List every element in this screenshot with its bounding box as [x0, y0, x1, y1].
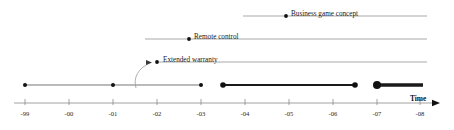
axis-tick-label-neg07: -07: [373, 111, 382, 118]
axis-title-time: Time: [410, 95, 426, 102]
main-event-marker-6: [373, 81, 381, 89]
axis-tick-label-neg05: -05: [285, 111, 294, 118]
main-event-marker-1: [23, 83, 27, 87]
callout-arrow-group: [135, 60, 152, 88]
extended-warranty-callout-curve: [135, 63, 150, 88]
timeline-chart: Business game conceptRemote controlExten…: [0, 0, 454, 130]
main-event-marker-2: [111, 83, 115, 87]
extended-warranty-callout-arrowhead: [146, 60, 152, 65]
axis-tick-label-neg02: -02: [153, 111, 162, 118]
marker-extended-warranty: [155, 60, 159, 64]
axis-tick-label-neg03: -03: [197, 111, 206, 118]
main-event-marker-3: [199, 83, 203, 87]
main-timeline-group: [23, 81, 423, 89]
marker-business-game-concept: [284, 14, 288, 18]
axis-tick-label-neg01: -01: [109, 111, 118, 118]
label-extended-warranty: Extended warranty: [163, 57, 217, 64]
axis-tick-label-neg04: -04: [241, 111, 250, 118]
label-remote-control: Remote control: [194, 34, 239, 41]
axis-tick-label-neg08: -08: [416, 111, 425, 118]
main-event-marker-5: [352, 82, 358, 88]
label-business-game-concept: Business game concept: [291, 11, 358, 18]
axis-tick-label-neg00: -00: [65, 111, 74, 118]
axis-arrowhead-icon: [432, 100, 440, 106]
axis-tick-label-neg99: -99: [21, 111, 30, 118]
time-axis-group: [14, 99, 440, 106]
axis-tick-label-neg06: -06: [329, 111, 338, 118]
main-event-marker-4: [220, 82, 226, 88]
marker-remote-control: [187, 37, 191, 41]
